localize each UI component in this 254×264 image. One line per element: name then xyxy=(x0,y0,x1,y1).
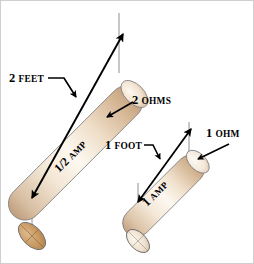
length-small-leader-line xyxy=(144,145,160,159)
length-small-label: 1 FOOT xyxy=(105,138,143,152)
resistance-small-leader-line xyxy=(198,144,229,159)
length-large-label: 2 FEET xyxy=(9,71,45,85)
wire-resistance-diagram: 2 FEET 2 OHMS 1/2 AMP xyxy=(1,1,254,264)
figure-container: 2 FEET 2 OHMS 1/2 AMP xyxy=(0,0,254,264)
short-wire-cylinder xyxy=(117,146,214,243)
short-wire-group: 1 FOOT 1 OHM 1 AMP xyxy=(105,122,240,257)
resistance-large-label: 2 OHMS xyxy=(132,93,171,107)
length-large-leader-line xyxy=(48,78,76,97)
resistance-small-label: 1 OHM xyxy=(206,126,240,140)
